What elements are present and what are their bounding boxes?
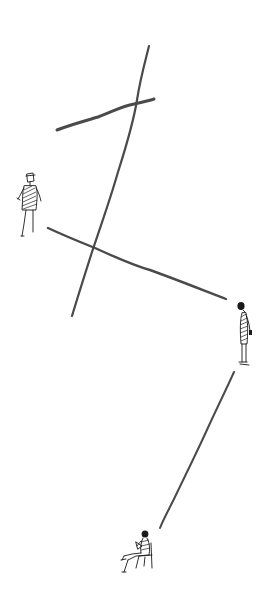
figure-standing-front — [17, 173, 41, 236]
diagonal-line — [48, 228, 226, 299]
crossing-line-short — [57, 99, 154, 130]
lower-line — [160, 372, 234, 528]
sketch-canvas — [0, 0, 276, 607]
figure-seated — [121, 530, 152, 572]
crossing-line-vertical — [72, 46, 149, 316]
figure-standing-profile — [237, 302, 252, 365]
